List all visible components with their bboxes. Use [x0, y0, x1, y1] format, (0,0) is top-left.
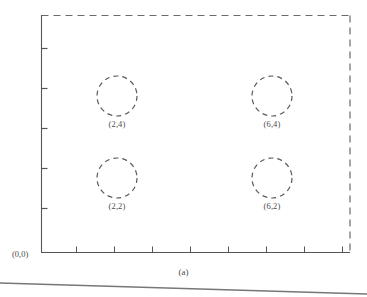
y-axis-ticks	[42, 49, 48, 209]
marker-circle-2-4	[97, 76, 137, 116]
figure-container: (2,4) (6,4) (2,2) (6,2) (0,0) (a)	[0, 0, 367, 297]
marker-label-6-2: (6,2)	[264, 202, 281, 211]
x-axis-ticks	[77, 247, 343, 253]
marker-label-2-4: (2,4)	[109, 120, 126, 129]
origin-label: (0,0)	[12, 250, 28, 259]
figure-caption: (a)	[179, 268, 189, 277]
marker-label-2-2: (2,2)	[109, 202, 126, 211]
marker-circle-6-2	[252, 158, 292, 198]
data-markers	[97, 76, 292, 198]
marker-circle-2-2	[97, 158, 137, 198]
figure-drawing	[0, 0, 367, 297]
marker-label-6-4: (6,4)	[264, 120, 281, 129]
marker-circle-6-4	[252, 76, 292, 116]
page-edge-artifact	[0, 283, 367, 294]
